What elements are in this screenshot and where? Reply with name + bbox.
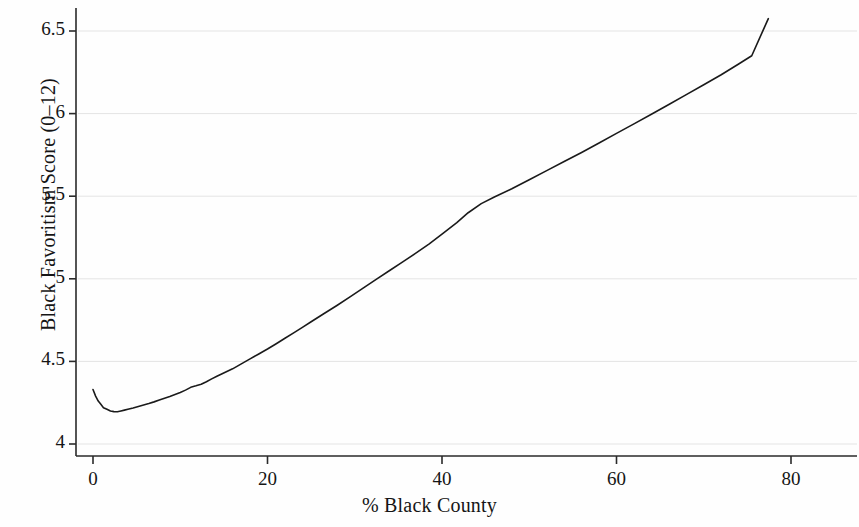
x-tick-label-0: 0 bbox=[63, 468, 123, 490]
axis-lines bbox=[76, 8, 857, 456]
x-axis-title: % Black County bbox=[0, 494, 859, 517]
x-tick-label-4: 80 bbox=[761, 468, 821, 490]
y-axis-title: Black Favoritism Score (0–12) bbox=[37, 15, 60, 395]
gridlines bbox=[78, 31, 857, 444]
x-tick-label-1: 20 bbox=[238, 468, 298, 490]
chart-figure: 44.555.566.5 020406080 Black Favoritism … bbox=[0, 0, 859, 527]
x-tick-label-3: 60 bbox=[587, 468, 647, 490]
y-tick-label-0: 4 bbox=[56, 431, 66, 453]
plot-area bbox=[0, 0, 859, 527]
data-line-series-0 bbox=[93, 19, 768, 412]
x-tick-label-2: 40 bbox=[412, 468, 472, 490]
